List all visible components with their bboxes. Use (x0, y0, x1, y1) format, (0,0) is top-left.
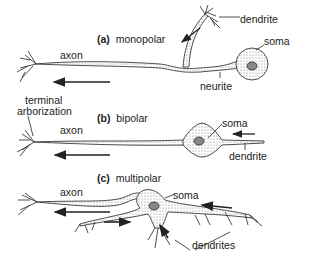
label-neurite-a: neurite (200, 81, 232, 92)
label-terminal-line2: arborization (17, 106, 72, 117)
label-soma-a: soma (264, 36, 290, 47)
label-axon-b: axon (60, 125, 83, 136)
terminal-arborization-a (17, 51, 36, 82)
arrow-dendrite-bottom-c (160, 225, 168, 238)
label-dendrite-b: dendrite (229, 151, 267, 162)
panel-c-title: (c) multipolar (97, 173, 161, 184)
label-dendrites-c: dendrites (192, 240, 235, 251)
nucleus-c (149, 202, 159, 210)
terminal-arborization-b (17, 130, 34, 156)
terminal-arborization-c (18, 193, 37, 215)
axon-c (37, 193, 145, 206)
nucleus-b (194, 137, 204, 145)
panel-b-title: (b) bipolar (97, 113, 148, 124)
panel-b-name: bipolar (116, 112, 148, 124)
axon-b (34, 140, 185, 145)
label-axon-c: axon (60, 187, 83, 198)
label-axon-a: axon (60, 50, 83, 61)
label-dendrite-a: dendrite (240, 14, 278, 25)
label-soma-b: soma (222, 118, 248, 129)
dendrite-stalk-a (183, 14, 208, 67)
panel-a-name: monopolar (116, 33, 166, 45)
label-terminal-line1: terminal (25, 95, 62, 106)
label-soma-c: soma (173, 190, 199, 201)
panel-a-title: (a) monopolar (97, 34, 165, 45)
panel-c-name: multipolar (116, 172, 162, 184)
nucleus-a (247, 62, 257, 70)
panel-a-letter: (a) (97, 33, 110, 45)
panel-b-letter: (b) (97, 112, 110, 124)
panel-c-letter: (c) (97, 172, 110, 184)
neurite-a (36, 60, 240, 72)
